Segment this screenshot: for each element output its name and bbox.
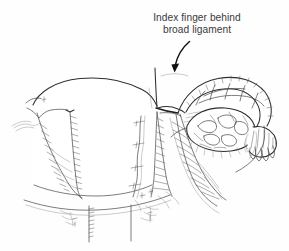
callout-line-1: Index finger behind (153, 12, 241, 23)
callout-line-2: broad ligament (163, 24, 231, 35)
medical-illustration-figure: Index finger behind broad ligament (0, 0, 289, 251)
uterus-body-fill (31, 78, 158, 198)
illustration-canvas: Index finger behind broad ligament (0, 0, 289, 251)
callout-text-group: Index finger behind broad ligament (153, 12, 241, 35)
